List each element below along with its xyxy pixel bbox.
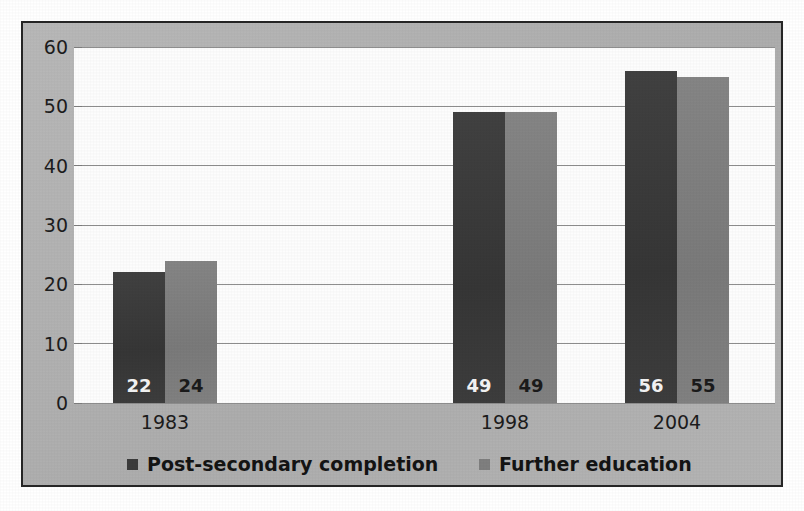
legend-entry-1[interactable]: Further education <box>479 451 692 477</box>
y-axis-tick-label: 50 <box>22 97 68 116</box>
bar-value-label: 49 <box>505 377 557 395</box>
plot-area: 222449495655 <box>74 47 775 403</box>
y-axis-tick-label: 0 <box>22 394 68 413</box>
x-axis-category-label-1998: 1998 <box>425 413 585 432</box>
y-axis-tick-mark <box>74 284 82 285</box>
bar-2004-series-1: 55 <box>677 77 729 403</box>
y-axis-tick-label: 30 <box>22 216 68 235</box>
legend-label: Post-secondary completion <box>147 455 438 474</box>
y-axis-tick-mark <box>74 106 82 107</box>
bar-value-label: 56 <box>625 377 677 395</box>
y-axis-tick-mark <box>74 343 82 344</box>
y-axis-tick-label: 20 <box>22 275 68 294</box>
y-axis-tick-mark <box>74 225 82 226</box>
bar-value-label: 55 <box>677 377 729 395</box>
bar-value-label: 24 <box>165 377 217 395</box>
legend-swatch-icon <box>127 459 138 470</box>
bar-1983-series-0: 22 <box>113 272 165 403</box>
bar-2004-series-0: 56 <box>625 71 677 403</box>
legend-swatch-icon <box>479 459 490 470</box>
bar-value-label: 22 <box>113 377 165 395</box>
bar-1998-series-1: 49 <box>505 112 557 403</box>
y-axis-tick-label: 60 <box>22 38 68 57</box>
gridline-60 <box>74 47 775 48</box>
x-axis-category-label-1983: 1983 <box>85 413 245 432</box>
bar-value-label: 49 <box>453 377 505 395</box>
y-axis-tick-label: 40 <box>22 156 68 175</box>
legend-entry-0[interactable]: Post-secondary completion <box>127 451 438 477</box>
bar-1983-series-1: 24 <box>165 261 217 403</box>
y-axis-tick-mark <box>74 165 82 166</box>
y-axis-tick-label: 10 <box>22 334 68 353</box>
legend-label: Further education <box>499 455 692 474</box>
y-axis: 0102030405060 <box>14 47 68 403</box>
chart-legend: Post-secondary completionFurther educati… <box>21 451 783 481</box>
y-axis-tick-mark <box>74 47 82 48</box>
y-axis-tick-mark <box>74 403 82 404</box>
x-axis-category-label-2004: 2004 <box>597 413 757 432</box>
bar-1998-series-0: 49 <box>453 112 505 403</box>
